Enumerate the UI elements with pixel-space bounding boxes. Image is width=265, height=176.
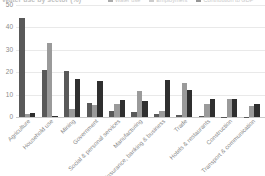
y-axis-tick-label: 20 bbox=[6, 69, 13, 76]
legend-swatch-icon bbox=[196, 0, 201, 2]
bar-group bbox=[83, 5, 105, 117]
x-axis-labels: AgricultureHousehold useMiningGovernment… bbox=[16, 117, 263, 176]
x-axis-label-slot: Transport & communication bbox=[241, 117, 263, 176]
chart-title: Water use by sector (%) bbox=[2, 0, 81, 3]
bar-group bbox=[38, 5, 60, 117]
x-axis-label: Mining bbox=[60, 118, 77, 135]
legend-item: Contribution to GDP bbox=[196, 0, 253, 3]
bar bbox=[120, 100, 125, 117]
chart-legend: Water useEmploymentContribution to GDP bbox=[108, 0, 253, 3]
bar-group bbox=[106, 5, 128, 117]
bar-group bbox=[61, 5, 83, 117]
legend-item: Employment bbox=[149, 0, 187, 3]
bar-group bbox=[128, 5, 150, 117]
bar bbox=[232, 99, 237, 117]
bar bbox=[254, 104, 259, 117]
y-axis-tick-label: 0 bbox=[9, 114, 13, 121]
bar bbox=[165, 80, 170, 117]
legend-item: Water use bbox=[108, 0, 140, 3]
legend-label: Water use bbox=[115, 0, 140, 3]
legend-label: Contribution to GDP bbox=[203, 0, 253, 3]
bar bbox=[97, 81, 102, 117]
bar bbox=[142, 101, 147, 117]
bar-group bbox=[16, 5, 38, 117]
bar bbox=[75, 79, 80, 117]
legend-swatch-icon bbox=[149, 0, 154, 2]
plot-area: 01020304050 bbox=[0, 5, 265, 117]
bar-groups bbox=[16, 5, 263, 117]
x-axis-label-slot: Insurance, banking & business bbox=[151, 117, 173, 176]
legend-label: Employment bbox=[156, 0, 187, 3]
bar-group bbox=[218, 5, 240, 117]
bar-group bbox=[173, 5, 195, 117]
bar-group bbox=[151, 5, 173, 117]
bar bbox=[19, 18, 24, 117]
x-axis-label: Trade bbox=[173, 118, 188, 133]
y-axis-tick-label: 50 bbox=[6, 2, 13, 9]
y-axis-tick-label: 30 bbox=[6, 47, 13, 54]
bar bbox=[187, 90, 192, 117]
bar bbox=[47, 43, 52, 117]
y-axis-tick-label: 10 bbox=[6, 91, 13, 98]
bar-group bbox=[241, 5, 263, 117]
bar-group bbox=[196, 5, 218, 117]
y-axis-tick-label: 40 bbox=[6, 24, 13, 31]
bar bbox=[210, 99, 215, 117]
legend-swatch-icon bbox=[108, 0, 113, 2]
x-axis-label-slot: Household use bbox=[38, 117, 60, 176]
y-axis: 01020304050 bbox=[0, 5, 16, 117]
